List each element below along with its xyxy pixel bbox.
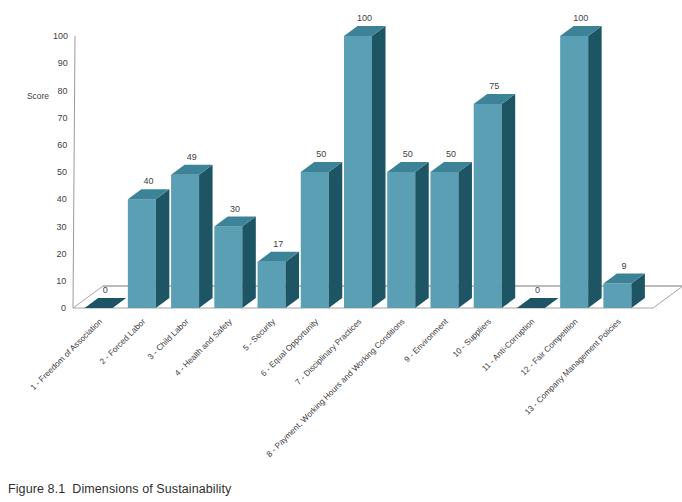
y-tick-label: 10 <box>56 276 66 286</box>
bar-value-label: 30 <box>230 204 240 214</box>
y-tick-label: 70 <box>57 113 67 123</box>
x-axis-category-label: 9 - Environment <box>403 317 451 365</box>
bar-value-label: 100 <box>573 13 588 23</box>
bar-value-label: 50 <box>403 149 413 159</box>
y-tick-label: 80 <box>58 86 68 96</box>
bar-value-label: 17 <box>273 239 283 249</box>
bar <box>387 162 429 308</box>
bar-value-label: 9 <box>621 261 626 271</box>
figure-caption-text: Dimensions of Sustainability <box>72 482 231 496</box>
bar-chart-3d: 0102030405060708090100 04049301750100505… <box>0 0 682 470</box>
bar <box>171 165 213 308</box>
x-axis-category-label: 2 - Forced Labor <box>98 317 147 366</box>
bar <box>214 217 256 309</box>
bar-value-label: 49 <box>187 152 197 162</box>
bar-value-label: 50 <box>446 149 456 159</box>
y-tick-label: 60 <box>57 140 67 150</box>
bars-group <box>85 26 645 308</box>
figure-caption: Figure 8.1Dimensions of Sustainability <box>8 482 231 496</box>
x-axis-category-label: 3 - Child Labor <box>146 317 191 362</box>
bar <box>344 26 386 308</box>
bar <box>128 189 170 308</box>
x-axis-category-label: 5 - Security <box>241 316 277 352</box>
y-tick-label: 30 <box>57 222 67 232</box>
y-tick-label: 90 <box>58 58 68 68</box>
x-axis-category-label: 10 - Suppliers <box>451 317 493 359</box>
figure-number: Figure 8.1 <box>8 482 65 496</box>
bar-value-label: 0 <box>103 285 108 295</box>
bar-value-label: 50 <box>316 149 326 159</box>
bar-value-label: 100 <box>357 13 372 23</box>
figure-container: 0102030405060708090100 04049301750100505… <box>0 0 682 502</box>
y-tick-label: 50 <box>57 167 67 177</box>
y-tick-label: 100 <box>53 31 68 41</box>
bar-value-label: 75 <box>489 81 499 91</box>
category-labels-group: 1 - Freedom of Association2 - Forced Lab… <box>29 316 623 459</box>
y-axis-title: Score <box>27 91 49 101</box>
y-tick-label: 40 <box>57 194 67 204</box>
bar <box>474 94 516 308</box>
y-axis: 0102030405060708090100 <box>53 31 75 313</box>
x-axis-category-label: 1 - Freedom of Association <box>29 317 105 393</box>
bar <box>301 162 343 308</box>
bar <box>258 252 300 308</box>
y-tick-label: 20 <box>56 249 66 259</box>
bar <box>430 162 472 308</box>
bar-value-label: 40 <box>143 176 153 186</box>
x-axis-category-label: 13 - Company Management Policies <box>523 317 623 417</box>
y-tick-label: 0 <box>61 303 66 313</box>
bar-value-label: 0 <box>535 285 540 295</box>
bar <box>560 26 602 308</box>
